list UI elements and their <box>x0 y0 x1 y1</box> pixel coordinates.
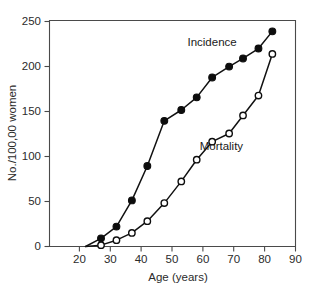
x-tick-label: 30 <box>104 253 117 265</box>
y-axis-tick-labels: 0 50 100 150 200 250 <box>22 15 41 252</box>
data-point <box>226 130 232 136</box>
data-point <box>226 63 233 70</box>
data-point <box>269 28 276 35</box>
series-mortality <box>86 51 276 249</box>
x-tick-label: 70 <box>227 253 240 265</box>
x-tick-label: 90 <box>289 253 302 265</box>
data-point <box>144 218 150 224</box>
data-point <box>255 92 261 98</box>
data-point <box>240 55 247 62</box>
y-tick-label: 0 <box>35 240 41 252</box>
data-point <box>269 51 275 57</box>
series-incidence <box>86 28 276 247</box>
y-tick-label: 250 <box>22 15 41 27</box>
x-axis-title: Age (years) <box>148 271 208 283</box>
data-point <box>129 230 135 236</box>
chart-canvas: 0 50 100 150 200 250 No./100,00 women 20… <box>0 0 316 291</box>
plot-frame <box>50 21 296 247</box>
data-point <box>209 74 216 81</box>
y-tick-label: 150 <box>22 105 41 117</box>
data-point <box>240 112 246 118</box>
data-point <box>128 197 135 204</box>
y-tick-label: 50 <box>28 195 41 207</box>
y-tick-label: 200 <box>22 60 41 72</box>
data-point <box>98 242 104 248</box>
series-label-incidence: Incidence <box>187 36 236 48</box>
data-point <box>178 178 184 184</box>
data-point <box>113 237 119 243</box>
y-tick-label: 100 <box>22 150 41 162</box>
x-tick-label: 80 <box>258 253 271 265</box>
data-point <box>255 45 262 52</box>
data-series-layer <box>86 28 276 248</box>
data-point <box>161 200 167 206</box>
x-axis-ticks <box>79 247 295 252</box>
data-point <box>193 94 200 101</box>
x-tick-label: 20 <box>73 253 86 265</box>
x-tick-label: 40 <box>135 253 148 265</box>
chart-figure: 0 50 100 150 200 250 No./100,00 women 20… <box>0 0 316 291</box>
y-axis-title: No./100,00 women <box>6 85 18 182</box>
x-tick-label: 60 <box>197 253 210 265</box>
series-line <box>86 54 273 247</box>
data-point <box>161 117 168 124</box>
series-label-mortality: Mortality <box>200 140 244 152</box>
data-point <box>178 107 185 114</box>
data-point <box>113 223 120 230</box>
data-point <box>194 157 200 163</box>
data-point <box>144 163 151 170</box>
x-axis-tick-labels: 20 30 40 50 60 70 80 90 <box>73 253 302 265</box>
series-line <box>86 31 273 246</box>
y-axis-ticks <box>45 22 50 247</box>
x-tick-label: 50 <box>166 253 179 265</box>
data-point <box>98 235 105 242</box>
